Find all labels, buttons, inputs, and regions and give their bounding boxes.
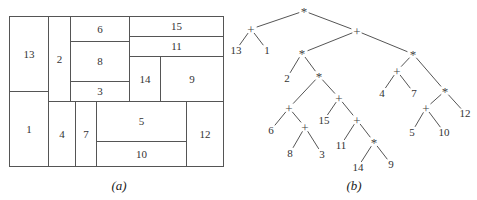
operator-node-plus: + — [335, 91, 342, 106]
operator-node-plus: + — [247, 22, 254, 37]
leaf-node-12: 12 — [460, 107, 471, 119]
rect-label: 9 — [189, 73, 195, 85]
tree-edge — [342, 102, 353, 115]
rect-module-4: 4 — [49, 102, 76, 167]
operator-node-plus: + — [285, 101, 292, 116]
leaf-node-11: 11 — [336, 139, 347, 151]
rect-module-10: 10 — [97, 142, 187, 167]
rect-label: 12 — [200, 128, 211, 140]
rect-label: 1 — [26, 123, 32, 135]
tree-edge — [400, 75, 410, 88]
rect-module-8: 8 — [71, 42, 130, 82]
operator-node-multiply: * — [410, 47, 417, 62]
leaf-node-14: 14 — [353, 161, 365, 173]
rect-module-9: 9 — [161, 57, 224, 102]
leaf-node-8: 8 — [287, 147, 293, 159]
rect-module-15: 15 — [130, 17, 224, 37]
leaf-node-1: 1 — [264, 44, 270, 56]
leaf-node-4: 4 — [379, 87, 385, 99]
operator-node-plus: + — [393, 64, 400, 79]
rect-label: 15 — [171, 20, 183, 32]
rect-label: 13 — [24, 48, 36, 60]
tree-edge — [322, 80, 335, 94]
tree-edge — [305, 57, 315, 71]
rect-label: 8 — [97, 55, 103, 67]
tree-edge — [308, 131, 319, 149]
leaf-node-5: 5 — [409, 126, 415, 138]
tree-edge — [254, 33, 263, 45]
tree-edge — [401, 58, 409, 67]
tree-edge — [275, 112, 286, 125]
tree-edge — [293, 80, 315, 104]
operator-node-multiply: * — [316, 69, 323, 84]
rect-label: 2 — [57, 53, 63, 65]
leaf-node-6: 6 — [268, 124, 274, 136]
leaf-node-9: 9 — [388, 158, 394, 170]
tree-edge — [360, 124, 370, 137]
tree-edge — [308, 33, 353, 51]
tree-edge — [429, 112, 440, 127]
rect-module-13: 13 — [10, 17, 49, 92]
leaf-node-10: 10 — [439, 126, 451, 138]
rect-label: 11 — [171, 40, 182, 52]
figure-canvas: 131268315111494751012 (a) *+131+*2*+6+83… — [0, 0, 477, 200]
rect-module-2: 2 — [49, 17, 71, 102]
rect-module-12: 12 — [187, 102, 224, 167]
caption-a: (a) — [111, 178, 126, 193]
rect-module-5: 5 — [97, 102, 187, 142]
tree-edge — [257, 13, 300, 27]
rect-module-1: 1 — [10, 92, 49, 167]
floorplan-rectangles: 131268315111494751012 — [10, 17, 224, 167]
operator-node-multiply: * — [301, 4, 308, 19]
leaf-node-7: 7 — [411, 87, 417, 99]
rect-module-7: 7 — [76, 102, 97, 167]
rect-label: 4 — [59, 128, 65, 140]
rect-module-6: 6 — [71, 17, 130, 42]
rect-label: 14 — [140, 73, 152, 85]
caption-b: (b) — [346, 178, 361, 193]
rect-module-11: 11 — [130, 37, 224, 57]
leaf-node-13: 13 — [231, 44, 243, 56]
tree-edge — [430, 94, 441, 104]
rect-module-3: 3 — [71, 82, 130, 102]
tree-edges — [239, 13, 460, 162]
tree-edge — [292, 112, 301, 123]
tree-edge — [416, 58, 441, 87]
operator-node-multiply: * — [299, 46, 306, 61]
operator-node-plus: + — [301, 120, 308, 135]
rect-label: 5 — [139, 115, 145, 127]
rect-label: 10 — [136, 148, 148, 160]
operator-node-plus: + — [422, 101, 429, 116]
operator-node-plus: + — [353, 113, 360, 128]
operator-node-multiply: * — [442, 84, 449, 99]
leaf-node-3: 3 — [319, 148, 325, 160]
rect-label: 3 — [97, 85, 103, 97]
operator-node-multiply: * — [371, 135, 378, 150]
rect-label: 6 — [97, 23, 103, 35]
tree-edge — [377, 146, 387, 159]
leaf-node-15: 15 — [319, 114, 331, 126]
tree-edge — [309, 13, 352, 29]
rect-module-14: 14 — [130, 57, 161, 102]
operator-node-plus: + — [353, 24, 360, 39]
tree-edge — [362, 33, 408, 52]
leaf-node-2: 2 — [284, 72, 290, 84]
rect-label: 7 — [83, 128, 89, 140]
